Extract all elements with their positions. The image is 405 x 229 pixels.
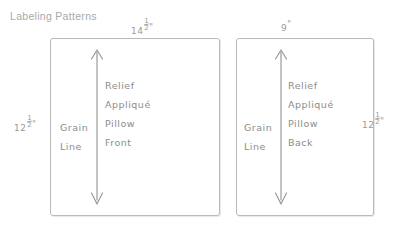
fraction-front-top: 12 xyxy=(144,18,149,32)
piece-label-pillow-front: Relief Appliqué Pillow Front xyxy=(105,76,151,152)
fraction-denominator-front-side: 2 xyxy=(27,122,32,129)
piece-label-back-line-0: Relief xyxy=(288,76,334,95)
dimension-whole-front-top: 14 xyxy=(131,26,143,36)
grain-line-label-front-line1: Grain xyxy=(60,118,88,137)
dimension-unit-back-top: " xyxy=(287,20,291,29)
piece-label-pillow-back: Relief Appliqué Pillow Back xyxy=(288,76,334,152)
dimension-label-top-back: 9" xyxy=(281,20,291,33)
fraction-back-side: 12 xyxy=(375,112,380,126)
grain-line-label-back: Grain Line xyxy=(244,118,272,156)
dimension-label-side-front: 1212" xyxy=(14,115,36,133)
grain-line-label-front: Grain Line xyxy=(60,118,88,156)
piece-label-back-line-3: Back xyxy=(288,133,334,152)
grain-line-label-front-line2: Line xyxy=(60,137,88,156)
piece-label-front-line-0: Relief xyxy=(105,76,151,95)
fraction-denominator-back-side: 2 xyxy=(375,119,380,126)
dimension-unit-back-side: " xyxy=(380,117,384,126)
piece-label-front-line-3: Front xyxy=(105,133,151,152)
dimension-unit-front-side: " xyxy=(32,120,36,129)
piece-label-front-line-2: Pillow xyxy=(105,114,151,133)
grain-line-label-back-line1: Grain xyxy=(244,118,272,137)
dimension-whole-back-side: 12 xyxy=(362,120,374,130)
piece-label-back-line-1: Appliqué xyxy=(288,95,334,114)
fraction-denominator-front-top: 2 xyxy=(144,25,149,32)
dimension-label-top-front: 1412" xyxy=(131,18,153,36)
piece-label-front-line-1: Appliqué xyxy=(105,95,151,114)
dimension-unit-front-top: " xyxy=(149,23,153,32)
page-title: Labeling Patterns xyxy=(10,10,97,22)
piece-label-back-line-2: Pillow xyxy=(288,114,334,133)
fraction-front-side: 12 xyxy=(27,115,32,129)
grain-line-label-back-line2: Line xyxy=(244,137,272,156)
dimension-label-side-back: 1212" xyxy=(362,112,384,130)
pattern-diagram-canvas: Labeling Patterns 1412" 1212" Grain Line… xyxy=(0,0,405,229)
dimension-whole-front-side: 12 xyxy=(14,123,26,133)
